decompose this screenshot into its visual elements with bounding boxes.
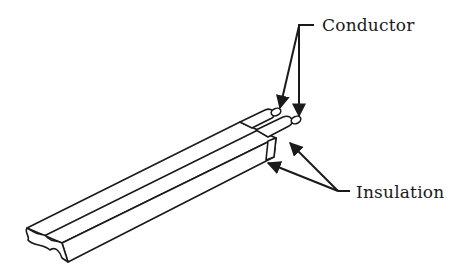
flat-cable-illustration xyxy=(26,107,302,262)
conductor-pointers xyxy=(280,25,314,116)
left-conductor-tip xyxy=(270,107,282,118)
insulation-arrow-lower xyxy=(268,163,338,191)
insulation-label: Insulation xyxy=(356,184,444,201)
cable-end-face xyxy=(266,138,276,160)
conductor-arrow-left xyxy=(280,26,299,108)
insulation-pointers xyxy=(268,143,350,191)
conductor-label: Conductor xyxy=(322,17,415,34)
right-conductor-tip xyxy=(290,115,302,126)
insulation-arrow-upper xyxy=(290,143,338,191)
cable-diagram xyxy=(0,0,472,269)
